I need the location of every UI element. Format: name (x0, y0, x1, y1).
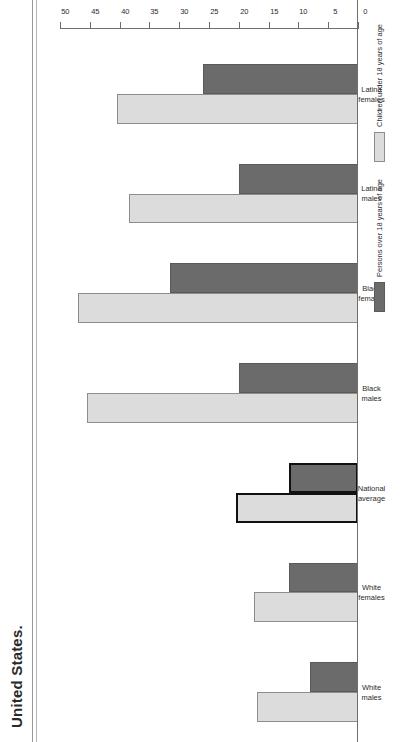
bar-children-under-18 (87, 393, 358, 423)
bar-group (60, 144, 358, 244)
category-label-line2: males (322, 692, 400, 702)
bar-group (60, 44, 358, 144)
value-axis-tick-label: 10 (290, 7, 308, 16)
legend-label: Persons over 18 years of age (375, 179, 384, 277)
category-label: Blackmales (322, 384, 400, 403)
legend-item: Persons over 18 years of age (374, 179, 385, 312)
value-axis-tick-label: 50 (52, 7, 70, 16)
category-label-line2: average (322, 493, 400, 503)
value-axis-tick (358, 22, 359, 29)
value-axis-tick-label: 5 (320, 7, 338, 16)
value-axis-tick-label: 0 (350, 7, 368, 16)
caption-text: United States. (8, 625, 25, 728)
value-axis-tick-label: 25 (201, 7, 219, 16)
category-label-line2: females (322, 592, 400, 602)
legend-label: Children under 18 years of age (375, 24, 384, 127)
value-axis-tick-label: 40 (111, 7, 129, 16)
value-axis-tick (179, 22, 180, 29)
category-label: Whitemales (322, 683, 400, 702)
value-axis-tick (328, 22, 329, 29)
category-label-line1: White (322, 583, 400, 593)
legend-swatch-light (374, 132, 385, 162)
bar-group (60, 243, 358, 343)
value-axis-tick-label: 35 (141, 7, 159, 16)
category-label-line1: National (322, 483, 400, 493)
value-axis-tick (90, 22, 91, 29)
value-axis-tick (239, 22, 240, 29)
figure-caption: United States. (6, 0, 40, 742)
value-axis-tick (269, 22, 270, 29)
category-label-line1: White (322, 683, 400, 693)
value-axis-tick (120, 22, 121, 29)
value-axis-baseline (357, 0, 358, 742)
bar-group (60, 642, 358, 742)
bar-groups (60, 0, 358, 742)
value-axis-tick-label: 30 (171, 7, 189, 16)
rotated-figure-canvas: United States. WhitemalesWhitefemalesNat… (0, 0, 400, 742)
value-axis: 50454035302520151050 (60, 0, 358, 44)
category-label: Whitefemales (322, 583, 400, 602)
category-label-line1: Black (322, 384, 400, 394)
caption-rule-bottom (36, 0, 37, 742)
value-axis-tick-label: 15 (260, 7, 278, 16)
chart-legend: Persons over 18 years of ageChildren und… (372, 12, 398, 312)
value-axis-tick (149, 22, 150, 29)
value-axis-tick (298, 22, 299, 29)
figure-page: United States. WhitemalesWhitefemalesNat… (0, 0, 400, 742)
caption-rule-top (32, 0, 33, 742)
legend-item: Children under 18 years of age (374, 24, 385, 162)
bar-group (60, 443, 358, 543)
legend-swatch-dark (374, 282, 385, 312)
bar-children-under-18 (78, 293, 358, 323)
value-axis-tick-label: 45 (81, 7, 99, 16)
value-axis-tick (209, 22, 210, 29)
bar-group (60, 343, 358, 443)
category-label-line2: males (322, 393, 400, 403)
plot-area (60, 0, 358, 742)
bar-group (60, 543, 358, 643)
value-axis-tick-label: 20 (230, 7, 248, 16)
category-label: Nationalaverage (322, 483, 400, 502)
value-axis-tick (60, 22, 61, 29)
